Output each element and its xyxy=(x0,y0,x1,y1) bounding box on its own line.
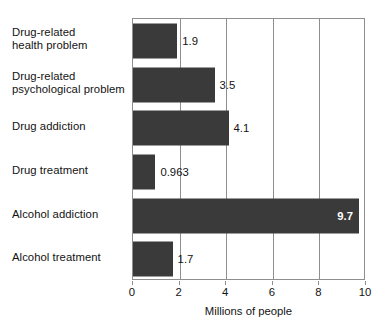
x-axis-title: Millions of people xyxy=(132,305,365,318)
x-tick-mark xyxy=(132,281,133,285)
category-label-line: Drug addiction xyxy=(12,120,130,134)
gridline xyxy=(319,19,320,279)
bar-value-label: 1.7 xyxy=(178,253,194,266)
gridline xyxy=(273,19,274,279)
bar-value-label: 3.5 xyxy=(220,78,236,91)
x-tick-mark xyxy=(179,281,180,285)
x-tick-label: 4 xyxy=(222,286,228,299)
category-label-alcohol-addiction: Alcohol addiction xyxy=(12,208,130,222)
x-tick-mark xyxy=(225,281,226,285)
gridline xyxy=(226,19,227,279)
category-label-line: Drug-related xyxy=(12,70,130,84)
x-tick-label: 0 xyxy=(129,286,135,299)
bar xyxy=(133,111,229,146)
bar-value-label: 0.963 xyxy=(160,165,188,178)
category-label-drug-related-health-problem: Drug-related health problem xyxy=(12,26,130,53)
x-axis: 0246810 xyxy=(132,281,365,299)
category-label-line: Alcohol treatment xyxy=(12,251,130,265)
category-label-line: psychological problem xyxy=(12,84,130,98)
x-tick-mark xyxy=(365,281,366,285)
bar-chart-figure: Drug-related health problem Drug-related… xyxy=(0,0,390,335)
category-label-line: Drug-related xyxy=(12,26,130,40)
category-axis-labels: Drug-related health problem Drug-related… xyxy=(0,18,128,280)
x-tick-label: 10 xyxy=(359,286,372,299)
bar xyxy=(133,198,359,233)
bar xyxy=(133,154,155,189)
category-label-alcohol-treatment: Alcohol treatment xyxy=(12,251,130,265)
plot-area: 1.93.54.10.9639.71.7 xyxy=(132,18,365,280)
category-label-line: Drug treatment xyxy=(12,164,130,178)
bar-value-label: 1.9 xyxy=(182,34,198,47)
x-tick-label: 8 xyxy=(315,286,321,299)
x-tick-mark xyxy=(272,281,273,285)
category-label-drug-addiction: Drug addiction xyxy=(12,120,130,134)
bar xyxy=(133,23,177,58)
bar-value-label: 4.1 xyxy=(234,122,250,135)
category-label-line: Alcohol addiction xyxy=(12,208,130,222)
bar xyxy=(133,242,173,277)
bar xyxy=(133,67,215,102)
x-tick-label: 6 xyxy=(269,286,275,299)
category-label-drug-related-psychological-problem: Drug-related psychological problem xyxy=(12,70,130,97)
category-label-drug-treatment: Drug treatment xyxy=(12,164,130,178)
x-tick-label: 2 xyxy=(175,286,181,299)
gridline xyxy=(180,19,181,279)
x-tick-mark xyxy=(318,281,319,285)
category-label-line: health problem xyxy=(12,40,130,54)
bar-value-label: 9.7 xyxy=(337,209,353,222)
